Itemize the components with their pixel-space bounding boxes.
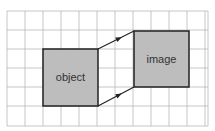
object-label: object [56,71,85,83]
diagram-canvas: object image [0,0,215,131]
image-label: image [147,53,177,65]
object-box: object [43,49,98,106]
connector-arrows [98,31,134,106]
image-box: image [134,31,189,87]
